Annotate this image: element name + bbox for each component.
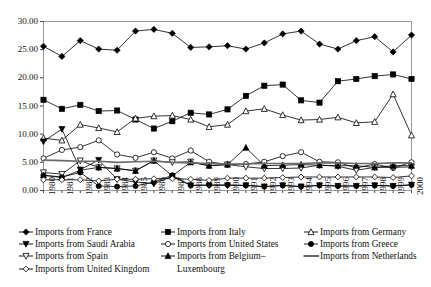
- marker-filled-circle: [243, 183, 248, 188]
- x-tick-label-16: 1996: [342, 177, 351, 195]
- legend-item[interactable]: Imports from United Kingdom: [18, 263, 149, 275]
- x-tick-label-9: 1989: [213, 177, 222, 195]
- legend-item[interactable]: Imports from Germany: [303, 226, 417, 238]
- y-tick-label-4: 20.00: [0, 73, 38, 82]
- legend-item[interactable]: Imports from Belgium–: [160, 250, 278, 262]
- legend-glyph: [165, 229, 170, 234]
- marker-open-circle: [165, 242, 170, 247]
- y-tick-label-5: 25.00: [0, 45, 38, 54]
- x-tick-label-19: 1999: [397, 177, 406, 195]
- legend-item[interactable]: Imports from Spain: [18, 250, 149, 262]
- legend-marker-filled-diamond: [18, 226, 35, 238]
- legend-marker-filled-square: [160, 226, 177, 238]
- marker-filled-square: [165, 229, 170, 234]
- legend-item-label: Imports from Germany: [320, 226, 406, 238]
- marker-filled-square: [243, 93, 248, 98]
- marker-open-circle: [299, 150, 304, 155]
- marker-filled-circle: [335, 183, 340, 188]
- x-tick-label-20: 2000: [416, 177, 425, 195]
- legend-marker-wrap: [160, 250, 177, 262]
- legend-item-label: Imports from United States: [177, 238, 278, 250]
- x-tick-label-15: 1995: [324, 177, 333, 195]
- x-tick-label-10: 1990: [232, 177, 241, 195]
- legend-marker-open-diamond: [18, 263, 35, 275]
- marker-open-circle: [78, 145, 83, 150]
- marker-filled-square: [188, 110, 193, 115]
- imports-line-chart: 0.005.0010.0015.0020.0025.0030.00 198019…: [0, 0, 431, 287]
- legend-glyph: [308, 242, 313, 247]
- x-tick-label-3: 1983: [103, 177, 112, 195]
- legend-marker-wrap: [18, 238, 35, 250]
- marker-filled-circle: [308, 242, 313, 247]
- legend-item-label: Imports from Belgium–: [177, 250, 265, 262]
- legend-item-label: Imports from Saudi Arabia: [35, 238, 135, 250]
- marker-filled-circle: [280, 183, 285, 188]
- marker-filled-square: [409, 76, 414, 81]
- marker-filled-circle: [391, 183, 396, 188]
- legend-item[interactable]: Imports from Netherlands: [303, 250, 417, 262]
- marker-open-circle: [133, 155, 138, 160]
- marker-open-circle: [151, 150, 156, 155]
- legend-marker-open-triangle-up: [303, 226, 320, 238]
- marker-filled-square: [317, 100, 322, 105]
- marker-filled-circle: [317, 183, 322, 188]
- marker-filled-circle: [133, 183, 138, 188]
- x-tick-label-6: 1986: [158, 177, 167, 195]
- marker-filled-circle: [354, 183, 359, 188]
- legend-marker-wrap: [303, 226, 320, 238]
- y-tick-label-1: 5.00: [0, 158, 38, 167]
- legend-item[interactable]: Imports from Italy: [160, 226, 278, 238]
- legend-item[interactable]: Imports from Saudi Arabia: [18, 238, 149, 250]
- y-tick-label-0: 0.00: [0, 186, 38, 195]
- legend-glyph: [165, 242, 170, 247]
- marker-open-circle: [115, 152, 120, 157]
- legend-item-label: Imports from Italy: [177, 226, 246, 238]
- marker-filled-circle: [188, 183, 193, 188]
- legend-marker-line-only: [303, 250, 320, 262]
- marker-filled-square: [280, 82, 285, 87]
- marker-open-circle: [188, 148, 193, 153]
- y-tick-label-6: 30.00: [0, 17, 38, 26]
- legend-marker-wrap: [18, 263, 35, 275]
- marker-filled-circle: [372, 183, 377, 188]
- legend-marker-filled-circle: [303, 238, 320, 250]
- legend-item[interactable]: Imports from United States: [160, 238, 278, 250]
- legend-glyph: [23, 229, 29, 235]
- x-tick-label-1: 1981: [66, 177, 75, 195]
- marker-filled-square: [59, 106, 64, 111]
- marker-filled-square: [207, 112, 212, 117]
- x-tick-label-18: 1998: [379, 177, 388, 195]
- chart-legend: Imports from FranceImports from Saudi Ar…: [8, 226, 428, 284]
- marker-filled-square: [299, 98, 304, 103]
- marker-filled-square: [391, 72, 396, 77]
- legend-marker-wrap: [160, 238, 177, 250]
- legend-marker-filled-triangle-down: [18, 238, 35, 250]
- legend-column-1: Imports from ItalyImports from United St…: [160, 226, 278, 275]
- legend-item[interactable]: Imports from France: [18, 226, 149, 238]
- marker-filled-diamond: [23, 229, 29, 235]
- marker-filled-square: [151, 126, 156, 131]
- marker-filled-circle: [262, 184, 267, 189]
- marker-filled-square: [96, 108, 101, 113]
- marker-filled-square: [372, 74, 377, 79]
- x-tick-label-12: 1992: [269, 177, 278, 195]
- legend-glyph: [23, 266, 29, 272]
- legend-marker-filled-triangle-up: [160, 250, 177, 262]
- marker-filled-square: [335, 79, 340, 84]
- legend-item[interactable]: Luxembourg: [160, 263, 278, 275]
- legend-column-2: Imports from GermanyImports from GreeceI…: [303, 226, 417, 263]
- marker-open-circle: [59, 147, 64, 152]
- legend-item[interactable]: Imports from Greece: [303, 238, 417, 250]
- x-tick-label-11: 1991: [250, 177, 259, 195]
- x-tick-label-2: 1982: [85, 177, 94, 195]
- legend-marker-wrap: [303, 238, 320, 250]
- marker-filled-square: [170, 119, 175, 124]
- y-tick-label-2: 10.00: [0, 130, 38, 139]
- x-tick-label-7: 1987: [177, 177, 186, 195]
- legend-marker-wrap: [18, 250, 35, 262]
- legend-marker-wrap: [303, 250, 320, 262]
- marker-filled-circle: [409, 182, 414, 187]
- legend-item-label: Imports from Spain: [35, 250, 108, 262]
- x-tick-label-14: 1994: [305, 177, 314, 195]
- legend-marker-wrap: [160, 226, 177, 238]
